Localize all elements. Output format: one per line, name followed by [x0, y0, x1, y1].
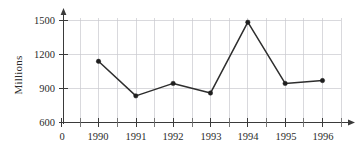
x-axis-arrow-icon: [348, 120, 355, 126]
y-tick-label-900: 900: [39, 83, 55, 94]
horizontal-gridlines: [63, 21, 341, 89]
x-tick-label-1992: 1992: [163, 131, 184, 142]
data-point: [134, 94, 138, 98]
x-tick-labels: 0 1990 1991 1992 1993 1994 1995 1996: [59, 131, 333, 142]
y-axis: [59, 8, 68, 124]
data-point: [283, 81, 287, 85]
data-point: [246, 20, 250, 24]
y-tick-label-1200: 1200: [34, 49, 55, 60]
y-tick-label-600: 600: [39, 117, 55, 128]
x-axis: [62, 118, 356, 127]
x-tick-label-1990: 1990: [88, 131, 109, 142]
x-tick-label-1991: 1991: [126, 131, 147, 142]
vertical-gridlines: [81, 18, 342, 122]
chart-canvas: 1500 1200 900 600 0 1990 1991 1992 1993 …: [0, 0, 359, 151]
y-tick-labels: 1500 1200 900 600: [34, 15, 55, 128]
y-axis-arrow-icon: [61, 8, 67, 15]
x-tick-label-1995: 1995: [276, 131, 297, 142]
x-tick-label-0: 0: [59, 131, 64, 142]
data-point: [208, 91, 212, 95]
line-chart: 1500 1200 900 600 0 1990 1991 1992 1993 …: [0, 0, 359, 151]
data-point: [96, 59, 100, 63]
x-tick-label-1996: 1996: [313, 131, 334, 142]
data-point: [171, 81, 175, 85]
data-point: [320, 78, 324, 82]
y-axis-title: Millions: [12, 56, 24, 95]
y-tick-label-1500: 1500: [34, 15, 55, 26]
x-tick-label-1993: 1993: [201, 131, 222, 142]
x-tick-label-1994: 1994: [238, 131, 260, 142]
